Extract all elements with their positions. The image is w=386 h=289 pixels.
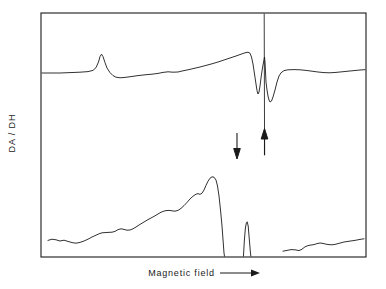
lower-trace-spike — [243, 222, 251, 257]
y-axis-label: DA / DH — [7, 103, 17, 163]
lower-trace-left — [48, 177, 225, 257]
upper-trace — [41, 52, 366, 102]
figure-root: DA / DH Magnetic field — [0, 0, 386, 289]
x-axis-label: Magnetic field — [41, 268, 367, 278]
lower-trace-right — [283, 239, 364, 251]
spectrum-plot — [0, 0, 386, 289]
annotation-arrows — [234, 129, 268, 160]
plot-frame — [41, 13, 366, 257]
right-arrow-icon — [220, 268, 260, 278]
down-arrow-icon — [234, 133, 241, 159]
x-axis-label-text: Magnetic field — [148, 268, 215, 278]
up-arrow-icon — [261, 129, 268, 156]
